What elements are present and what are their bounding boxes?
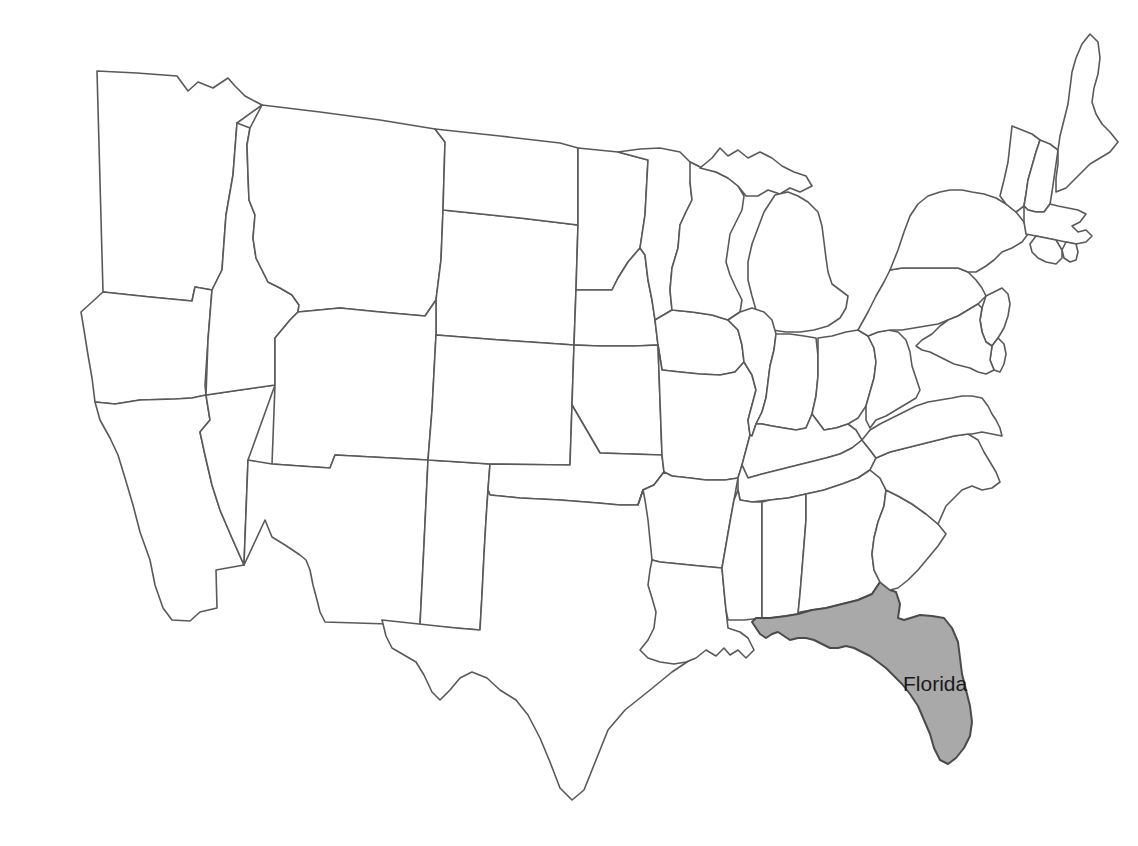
us-map-container: WashingtonOregonCaliforniaNevadaIdahoMon…	[0, 0, 1138, 846]
state-wyoming[interactable]: Wyoming	[436, 210, 578, 345]
state-rhode-island[interactable]: Rhode Island	[1062, 242, 1078, 262]
state-oregon[interactable]: Oregon	[81, 287, 212, 404]
state-utah[interactable]: Utah	[272, 300, 436, 468]
state-colorado[interactable]: Colorado	[428, 335, 574, 465]
state-montana[interactable]: Montana	[247, 105, 445, 316]
us-map-svg: WashingtonOregonCaliforniaNevadaIdahoMon…	[0, 0, 1138, 846]
state-new-mexico[interactable]: New Mexico	[420, 460, 490, 630]
state-arkansas[interactable]: Arkansas	[638, 472, 738, 568]
state-north-dakota[interactable]: North Dakota	[435, 129, 578, 225]
